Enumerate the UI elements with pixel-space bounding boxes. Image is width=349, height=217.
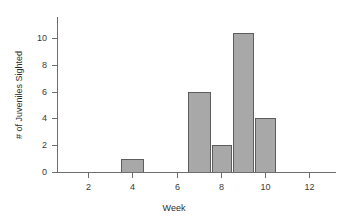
x-axis-ticks: 24681012 — [86, 173, 315, 192]
x-tick-label-6: 6 — [175, 182, 180, 192]
bar-week-9 — [234, 34, 254, 173]
y-axis-title: # of Juveniles Sighted — [14, 51, 24, 139]
y-tick-label-0: 0 — [42, 167, 47, 177]
x-tick-label-12: 12 — [304, 182, 314, 192]
x-tick-label-4: 4 — [130, 182, 135, 192]
x-tick-label-8: 8 — [219, 182, 224, 192]
y-axis-ticks: 0246810 — [37, 33, 57, 177]
y-tick-label-2: 2 — [42, 140, 47, 150]
y-tick-label-4: 4 — [42, 113, 47, 123]
bar-chart-figure: 24681012 0246810 Week # of Juveniles Sig… — [0, 0, 349, 217]
chart-canvas: 24681012 0246810 Week # of Juveniles Sig… — [0, 0, 349, 217]
bars-group — [122, 34, 276, 173]
x-tick-label-2: 2 — [86, 182, 91, 192]
y-tick-label-6: 6 — [42, 87, 47, 97]
y-tick-label-8: 8 — [42, 60, 47, 70]
bar-week-8 — [213, 146, 232, 173]
bar-week-7 — [189, 93, 211, 173]
bar-week-4 — [122, 160, 144, 173]
plot-area: 24681012 0246810 — [37, 17, 336, 192]
bar-week-10 — [256, 119, 276, 173]
x-axis-title: Week — [163, 203, 186, 213]
x-tick-label-10: 10 — [260, 182, 270, 192]
y-tick-label-10: 10 — [37, 33, 47, 43]
